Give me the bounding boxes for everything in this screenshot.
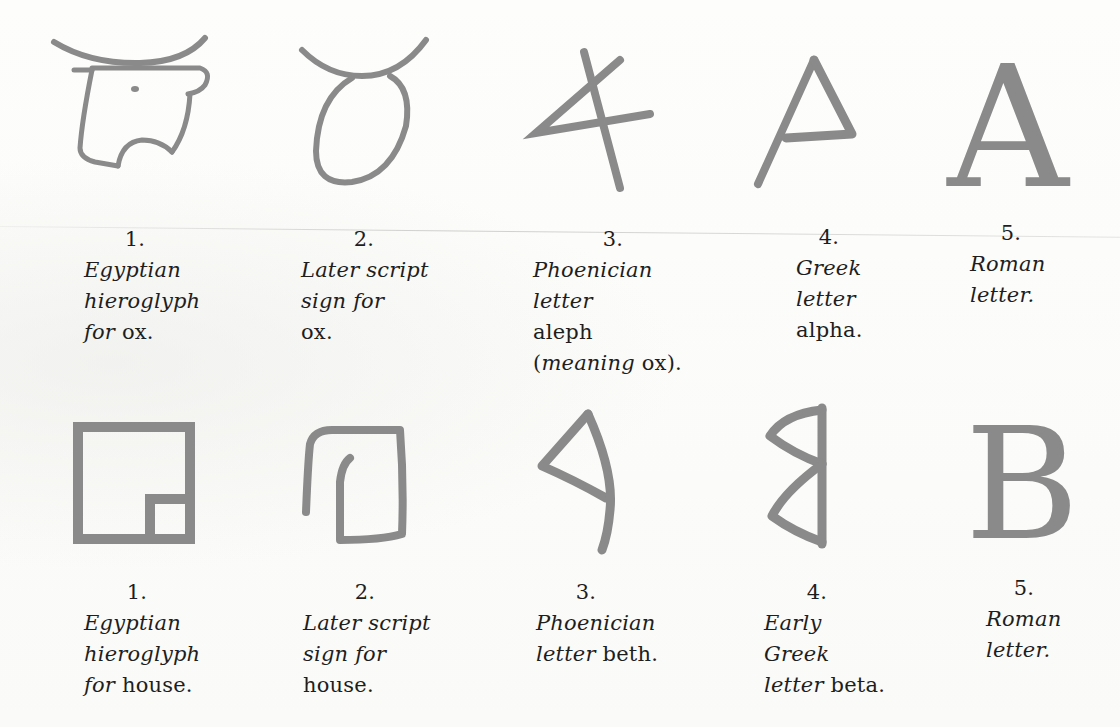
item-number: 3.	[533, 224, 693, 255]
item-number: 5.	[986, 573, 1062, 604]
svg-text:B: B	[965, 393, 1080, 575]
item-number: 4.	[796, 222, 862, 253]
item-number: 1.	[84, 577, 190, 608]
egyptian-hieroglyph-house-icon	[72, 421, 197, 546]
caption-early-greek-beta: 4. Early Greek letter beta.	[764, 577, 894, 701]
caption-later-script-house: 2. Later script sign for house.	[303, 577, 443, 701]
caption-greek-alpha: 4. Greek letter alpha.	[796, 222, 896, 346]
caption-roman-a: 5. Roman letter.	[970, 218, 1070, 311]
item-number: 2.	[303, 577, 427, 608]
item-number: 3.	[536, 577, 636, 608]
roman-a-icon: A	[952, 50, 1067, 190]
caption-roman-b: 5. Roman letter.	[986, 573, 1086, 666]
phoenician-aleph-icon	[528, 48, 663, 198]
item-number: 5.	[970, 218, 1052, 249]
early-greek-beta-icon	[764, 402, 839, 547]
svg-text:A: A	[946, 30, 1070, 226]
item-number: 2.	[301, 224, 427, 255]
caption-later-script-ox: 2. Later script sign for ox.	[301, 224, 441, 348]
caption-egyptian-house: 1. Egyptian hieroglyph for house.	[84, 577, 214, 701]
later-script-house-icon	[302, 422, 417, 547]
greek-alpha-icon	[750, 54, 870, 189]
caption-phoenician-aleph: 3. Phoenician letter aleph (meaning ox).	[533, 224, 703, 379]
item-number: 1.	[84, 224, 186, 255]
egyptian-hieroglyph-ox-icon	[50, 30, 215, 180]
caption-egyptian-ox: 1. Egyptian hieroglyph for ox.	[84, 224, 204, 348]
later-script-ox-icon	[300, 36, 435, 186]
item-number: 4.	[764, 577, 870, 608]
roman-b-icon: B	[978, 410, 1073, 545]
phoenician-beth-icon	[534, 408, 619, 558]
caption-phoenician-beth: 3. Phoenician letter beth.	[536, 577, 686, 670]
